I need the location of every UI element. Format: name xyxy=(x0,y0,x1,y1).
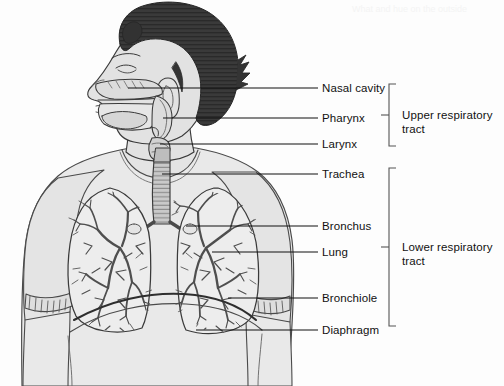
group-label-upper-respiratory-tract: Upper respiratory tract xyxy=(402,108,504,136)
label-trachea: Trachea xyxy=(322,168,364,181)
label-bronchiole: Bronchiole xyxy=(322,292,377,305)
label-nasal-cavity: Nasal cavity xyxy=(322,82,385,95)
bracket-lower-respiratory-tract xyxy=(381,168,396,326)
group-upper-line2: tract xyxy=(402,122,504,136)
label-larynx: Larynx xyxy=(322,138,357,151)
group-label-lower-respiratory-tract: Lower respiratory tract xyxy=(402,240,504,268)
label-lung: Lung xyxy=(322,246,348,259)
label-pharynx: Pharynx xyxy=(322,112,365,125)
label-diaphragm: Diaphragm xyxy=(322,324,379,337)
leader-lines-and-brackets xyxy=(0,0,504,386)
label-bronchus: Bronchus xyxy=(322,220,371,233)
group-upper-line1: Upper respiratory xyxy=(402,108,504,122)
group-lower-line2: tract xyxy=(402,254,504,268)
group-lower-line1: Lower respiratory xyxy=(402,240,504,254)
diagram-canvas: What and hue on the outside xyxy=(0,0,504,386)
